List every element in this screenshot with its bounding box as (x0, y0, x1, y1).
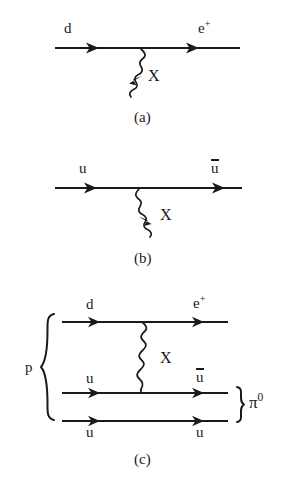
feynman-figure: d e+ X (a) u u X (b) d e+ X u u u u p π0… (0, 0, 300, 484)
diagram-c-graphics (41, 314, 244, 426)
label-a-boson: X (148, 68, 160, 84)
label-b-outgoing-text: u (211, 160, 219, 176)
label-c-top-in: d (86, 297, 94, 312)
label-c-bot-out: u (196, 425, 204, 440)
pion-brace (237, 387, 244, 422)
label-pion: π0 (249, 394, 263, 411)
overbar-c-mid-out (196, 368, 204, 369)
caption-b: (b) (134, 251, 152, 266)
diagram-b-graphics (55, 182, 242, 237)
label-c-top-out-text: e (193, 295, 200, 311)
label-c-boson: X (160, 350, 172, 366)
label-c-top-out-superscript: + (200, 293, 206, 304)
wavy-boson-c (137, 322, 146, 393)
label-a-outgoing-superscript: + (205, 18, 211, 29)
label-a-incoming: d (64, 21, 72, 36)
label-b-incoming: u (79, 161, 87, 176)
label-c-bot-in: u (86, 425, 94, 440)
label-a-outgoing: e+ (198, 21, 210, 36)
proton-brace (41, 314, 54, 420)
label-c-mid-out: u (196, 370, 204, 385)
label-c-mid-in: u (86, 371, 94, 386)
label-pion-text: π (249, 393, 258, 412)
caption-c: (c) (134, 452, 151, 467)
label-pion-superscript: 0 (258, 391, 264, 404)
overbar-b-outgoing (211, 159, 219, 160)
label-c-top-out: e+ (193, 296, 205, 311)
wavy-boson-b (136, 189, 152, 237)
wavy-boson-a (130, 49, 145, 97)
caption-a: (a) (134, 110, 151, 125)
label-b-boson: X (160, 207, 172, 223)
label-a-outgoing-text: e (198, 20, 205, 36)
label-b-outgoing-barwrap: u (211, 161, 219, 176)
label-proton: p (25, 360, 33, 375)
label-c-mid-out-barwrap: u (196, 370, 204, 385)
label-c-mid-out-text: u (196, 369, 204, 385)
label-b-outgoing: u (211, 161, 219, 176)
